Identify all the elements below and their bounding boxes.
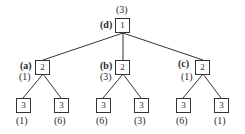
leaf-a1-annotation: (1) <box>16 116 28 126</box>
node-a-annotation: (1) <box>19 72 31 82</box>
tree-leaf-c1: 3 <box>176 98 191 113</box>
leaf-b2-annotation: (3) <box>134 116 146 126</box>
leaf-a2-annotation: (6) <box>54 116 66 126</box>
tree-leaf-a2: 3 <box>54 98 69 113</box>
tree-leaf-c2: 3 <box>214 98 229 113</box>
node-b-tag: (b) <box>100 61 112 71</box>
tree-node-root: 1 <box>115 18 130 33</box>
node-c-annotation: (1) <box>181 72 193 82</box>
tree-leaf-b1: 3 <box>96 98 111 113</box>
leaf-c2-annotation: (1) <box>214 116 226 126</box>
node-c-tag: (c) <box>178 59 189 69</box>
leaf-c1-annotation: (6) <box>176 116 188 126</box>
root-annotation: (3) <box>116 5 128 15</box>
tree-leaf-a1: 3 <box>16 98 31 113</box>
tree-node-c: 2 <box>195 60 210 75</box>
root-tag: (d) <box>100 20 112 30</box>
tree-node-a: 2 <box>35 60 50 75</box>
leaf-b1-annotation: (6) <box>96 116 108 126</box>
tree-node-b: 2 <box>115 60 130 75</box>
node-b-annotation: (3) <box>100 72 112 82</box>
tree-leaf-b2: 3 <box>134 98 149 113</box>
node-a-tag: (a) <box>20 61 32 71</box>
